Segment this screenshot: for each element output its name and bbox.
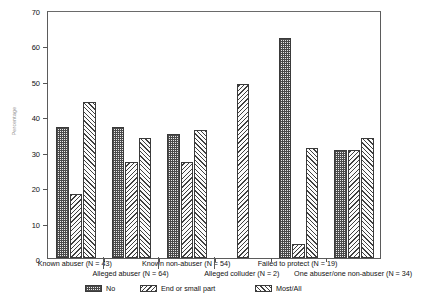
bar-chart-figure: Percentage 010203040506070 Known abuser … — [0, 0, 424, 301]
x-axis-label: Failed to protect (N = 19) — [258, 259, 338, 268]
bar — [361, 138, 374, 258]
x-axis-label: Alleged colluder (N = 2) — [204, 269, 279, 278]
legend-label: No — [106, 284, 115, 293]
bar — [181, 162, 194, 258]
legend-item: No — [85, 284, 115, 293]
bar — [292, 244, 305, 258]
y-axis-tick-label: 20 — [32, 185, 40, 194]
chart-legend: NoEnd or small partMost/All — [0, 284, 424, 298]
bar — [237, 84, 250, 258]
bar — [279, 38, 292, 258]
legend-swatch-icon — [85, 285, 102, 292]
legend-swatch-icon — [255, 285, 272, 292]
y-axis-tick — [43, 154, 48, 155]
bar — [139, 138, 152, 258]
x-axis-label-divider — [158, 257, 159, 269]
y-axis-tick — [43, 189, 48, 190]
y-axis-tick-label: 50 — [32, 78, 40, 87]
x-axis-labels-row-2: Alleged abuser (N = 64)Alleged colluder … — [0, 269, 424, 280]
y-axis-tick-label: 40 — [32, 114, 40, 123]
x-axis-label: One abuser/one non-abuser (N = 34) — [294, 269, 412, 278]
y-axis-tick — [43, 118, 48, 119]
y-axis-tick-label: 70 — [32, 8, 40, 17]
y-axis-tick-label: 30 — [32, 149, 40, 158]
bar — [125, 162, 138, 258]
legend-label: Most/All — [276, 284, 302, 293]
plot-area: 010203040506070 — [47, 11, 381, 259]
y-axis-tick-label: 10 — [32, 220, 40, 229]
y-axis-label: Percentage — [11, 91, 17, 151]
y-axis-tick — [43, 83, 48, 84]
y-axis-tick — [43, 47, 48, 48]
legend-label: End or small part — [161, 284, 215, 293]
x-axis-label: Known abuser (N = 43) — [38, 259, 112, 268]
legend-item: End or small part — [140, 284, 215, 293]
y-axis-tick-label: 60 — [32, 43, 40, 52]
bar — [167, 134, 180, 258]
legend-item: Most/All — [255, 284, 302, 293]
x-axis-label-divider — [214, 257, 215, 269]
bar — [194, 130, 207, 258]
bar — [306, 148, 319, 258]
legend-swatch-icon — [140, 285, 157, 292]
x-axis-label: Alleged abuser (N = 64) — [92, 269, 168, 278]
bar — [334, 150, 347, 258]
x-axis-label-divider — [103, 257, 104, 269]
chart-top-title-fragment — [110, 0, 360, 3]
bar — [112, 127, 125, 258]
bar — [348, 150, 361, 258]
y-axis-tick — [43, 225, 48, 226]
bar — [56, 127, 69, 258]
x-axis-label: Known non-abuser (N = 54) — [142, 259, 231, 268]
bar — [83, 102, 96, 258]
bar — [70, 194, 83, 258]
